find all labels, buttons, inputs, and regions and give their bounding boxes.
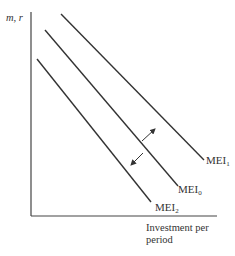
mei1-label-sub: 1 bbox=[226, 160, 230, 168]
mei2-label-base: MEI bbox=[155, 201, 175, 213]
mei1-label: MEI1 bbox=[206, 154, 230, 170]
shift-right-arrow bbox=[142, 129, 155, 141]
x-axis-label-line-2: period bbox=[146, 234, 226, 246]
mei-shift-diagram bbox=[0, 0, 235, 256]
mei0-curve bbox=[45, 30, 178, 186]
mei1-curve bbox=[61, 14, 204, 160]
mei0-label-sub: 0 bbox=[198, 189, 202, 197]
y-axis-label: m, r bbox=[6, 12, 23, 24]
mei2-label: MEI2 bbox=[155, 201, 179, 217]
x-axis-label: Investment per period bbox=[146, 222, 226, 246]
mei2-curve bbox=[37, 59, 151, 202]
mei1-label-base: MEI bbox=[206, 154, 226, 166]
x-axis-label-line-1: Investment per bbox=[146, 222, 226, 234]
shift-left-arrow bbox=[131, 153, 143, 165]
mei0-label-base: MEI bbox=[178, 183, 198, 195]
mei2-label-sub: 2 bbox=[175, 207, 179, 215]
mei0-label: MEI0 bbox=[178, 183, 202, 199]
